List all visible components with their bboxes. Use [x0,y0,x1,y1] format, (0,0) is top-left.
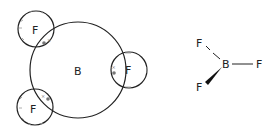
bond-upper-left-segment [213,53,220,59]
fluorine-label-top: F [32,24,38,37]
fluorine-label-right: F [125,64,131,77]
structural-formula: B F F F [196,37,262,94]
electron-cross-icon: × [47,37,51,43]
struct-fluorine-right: F [256,58,262,71]
electron-cross-icon: × [41,93,45,99]
fluorine-label-bottom: F [30,103,36,116]
electron-cross-icon: × [112,64,116,70]
electron-dot-icon [42,41,46,45]
bond-upper-left-segment [206,46,210,50]
electron-dot-icon [112,71,116,75]
bf3-diagram: × × × B F F F B F F F [0,0,277,127]
wedge-bond [205,67,222,85]
electron-dot-icon [46,97,50,101]
struct-fluorine-lower-left: F [196,81,202,94]
struct-boron-label: B [222,58,230,71]
boron-label: B [74,65,82,78]
struct-fluorine-upper-left: F [196,37,202,50]
